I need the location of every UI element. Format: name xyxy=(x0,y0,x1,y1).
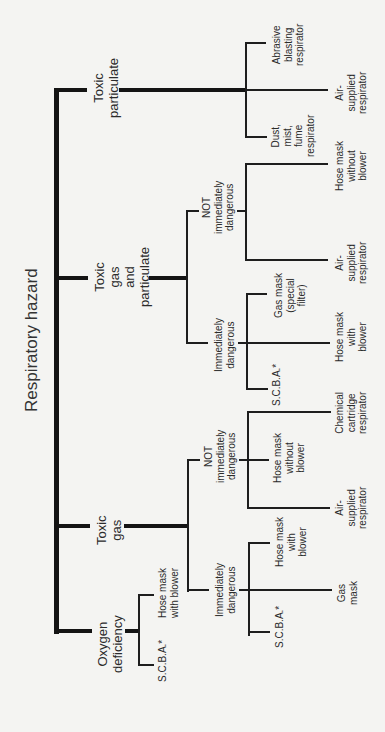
leaf-dust-mist-fume-respirator: Dust, mist, fume respirator xyxy=(270,115,316,157)
connector-toxic-gas-b xyxy=(124,524,189,528)
main-trunk-line xyxy=(54,89,59,634)
edge-gas-mask-special xyxy=(246,293,267,295)
connector-toxic-gas-particulate-b xyxy=(149,276,188,280)
connector-oxygen-leaves xyxy=(138,594,140,666)
edge-tg-not-immediate-b xyxy=(239,459,269,461)
leaf-air-supplied-respirator-2: Air- supplied respirator xyxy=(334,242,369,284)
node-tg-immediately-dangerous: Immediately dangerous xyxy=(214,563,237,617)
edge-chemical-cartridge xyxy=(247,411,331,413)
leaf-scba-3: S.C.B.A.* xyxy=(157,640,169,682)
edge-tg-immediate-b xyxy=(239,589,332,591)
edge-tg-not-immediate xyxy=(187,459,200,461)
connector-tgp-imm-leaves xyxy=(246,293,248,389)
leaf-hose-mask-with-blower-2: Hose mask with blower xyxy=(274,517,309,567)
leaf-hose-mask-without-blower-1: Hose mask without blower xyxy=(334,141,369,191)
leaf-chemical-cartridge-respirator: Chemical cartridge respirator xyxy=(334,392,369,434)
leaf-hose-mask-without-blower-2: Hose mask without blower xyxy=(272,433,307,483)
edge-air-supplied-1 xyxy=(245,89,328,91)
edge-air-supplied-2 xyxy=(245,259,328,261)
leaf-hose-mask-with-blower-1: Hose mask with blower xyxy=(334,312,369,362)
connector-tg-imm-leaves xyxy=(248,542,250,636)
edge-scba-3 xyxy=(138,664,154,666)
connector-toxic-particulate-a xyxy=(54,88,87,92)
edge-abrasive-blasting xyxy=(245,42,266,44)
connector-toxic-particulate-b xyxy=(119,88,247,92)
node-toxic-gas: Toxic gas xyxy=(95,515,125,545)
leaf-scba-2: S.C.B.A.* xyxy=(274,606,286,648)
edge-scba-1 xyxy=(246,388,268,390)
leaf-scba-1: S.C.B.A.* xyxy=(271,364,283,406)
connector-tgp-not-leaves xyxy=(245,163,247,261)
edge-hose-without-blower-1 xyxy=(245,163,328,165)
leaf-abrasive-blasting-respirator: Abrasive blasting respirator xyxy=(271,24,306,66)
edge-hose-with-blower-2 xyxy=(248,542,270,544)
node-toxic-particulate: Toxic particulate xyxy=(92,58,122,118)
edge-air-supplied-3 xyxy=(247,507,330,509)
leaf-air-supplied-respirator-1: Air- supplied respirator xyxy=(334,72,369,114)
edge-tgp-immediate xyxy=(186,342,208,344)
connector-toxic-gas-a xyxy=(54,524,90,528)
edge-scba-2 xyxy=(248,631,270,633)
node-tgp-not-immediately-dangerous: NOT immediately dangerous xyxy=(201,181,236,234)
node-tgp-immediately-dangerous: Immediately dangerous xyxy=(213,318,236,372)
connector-oxygen-deficiency-a xyxy=(54,629,92,633)
node-oxygen-deficiency: Oxygen deficiency xyxy=(96,615,126,673)
leaf-gas-mask: Gas mask xyxy=(336,581,359,605)
edge-tgp-not-immediate xyxy=(186,210,199,212)
connector-tg-split xyxy=(187,459,189,592)
diagram-title: Respiratory hazard xyxy=(22,268,42,412)
leaf-hose-mask-with-blower-3: Hose mask with blower xyxy=(157,568,180,618)
leaf-air-supplied-respirator-3: Air- supplied respirator xyxy=(334,487,369,529)
connector-tg-not-leaves xyxy=(247,411,249,509)
edge-hose-with-blower-3 xyxy=(138,594,154,596)
edge-tgp-immediate-b xyxy=(238,342,330,344)
connector-tgp-split xyxy=(186,210,188,344)
edge-dust-mist-fume xyxy=(245,136,267,138)
leaf-gas-mask-special-filter: Gas mask (special filter) xyxy=(273,273,308,318)
edge-tg-immediate xyxy=(187,589,209,591)
connector-toxic-gas-particulate-a xyxy=(54,276,88,280)
node-tg-not-immediately-dangerous: NOT immediately dangerous xyxy=(203,430,238,483)
node-toxic-gas-and-particulate: Toxic gas and particulate xyxy=(93,247,153,307)
